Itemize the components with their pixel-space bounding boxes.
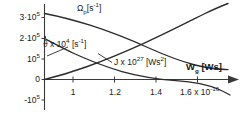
series-label-omega-p: Ωp[s-1] (77, 4, 101, 13)
x-axis-title: Wg [Ws] (186, 62, 222, 72)
x-axis-tick-label-1p4: 1.4 (144, 88, 168, 97)
series-label-theta-dot: ϑ x 104 [s-1] (43, 40, 86, 49)
y-axis-tick-label-1e5: 105 (4, 55, 40, 64)
theta-dot-symbol: ϑ (43, 40, 48, 49)
y-axis-tick-label-0: 0 (4, 75, 40, 84)
x-axis-arrow (228, 76, 239, 84)
x-axis-tick-label-1p6-scaled: 1.6 x 10-16 (180, 88, 242, 97)
chart-figure: 3·105 2·105 105 0 -105 1 1.2 1.4 1.6 x 1… (0, 0, 244, 119)
y-axis-tick-label-3e5: 3·105 (4, 13, 40, 22)
dot-accent-icon (45, 36, 47, 38)
x-axis-tick-label-1p2: 1.2 (103, 88, 127, 97)
y-axis-tick-label-neg1e5: -105 (2, 96, 40, 105)
x-axis-tick-label-1: 1 (63, 88, 83, 97)
series-label-j: J x 1027 [Ws2] (114, 58, 166, 67)
y-axis-tick-label-2e5: 2·105 (4, 34, 40, 43)
